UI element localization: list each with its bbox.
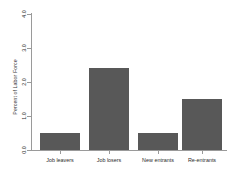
x-tick-mark-1 (109, 151, 110, 154)
bar-new-entrants (138, 133, 178, 150)
plot-area (32, 13, 227, 150)
y-axis-title: Percent of Labor Force (10, 19, 20, 155)
bar-re-entrants (182, 99, 222, 150)
bar-chart-figure: Percent of Labor Force 4.0 3.0 2.0 1.0 0… (0, 0, 230, 174)
bar-job-leavers (40, 133, 80, 150)
x-tick-label-re-entrants: Re-entrants (172, 156, 230, 165)
x-tick-mark-3 (202, 151, 203, 154)
x-tick-mark-0 (60, 151, 61, 154)
bar-job-losers (89, 68, 129, 150)
x-tick-mark-2 (158, 151, 159, 154)
